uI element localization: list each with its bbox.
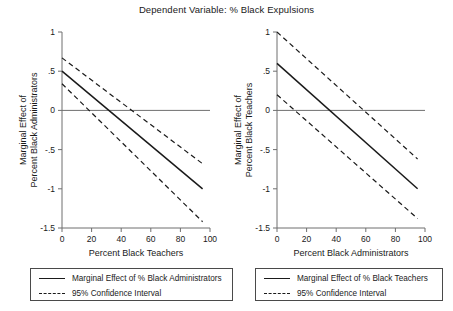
x-axis-tick-label: 60 [146, 234, 156, 244]
y-axis-title-line1: Marginal Effect of [18, 95, 28, 165]
legend-key-stroke [264, 293, 290, 294]
legend-entry: Marginal Effect of % Black Teachers [256, 271, 442, 286]
y-axis-tick-label: 1 [265, 27, 270, 37]
legend-solid-line-icon [262, 274, 292, 284]
y-axis-tick-label: 0 [50, 105, 55, 115]
x-axis-tick-label: 20 [302, 234, 312, 244]
legend-right: Marginal Effect of % Black Teachers95% C… [255, 268, 443, 301]
legend-key-stroke [264, 278, 290, 279]
chart-panel-left: 1.50-.5-1-1.5020406080100Percent Black T… [18, 27, 217, 258]
x-axis-tick-label: 80 [176, 234, 186, 244]
y-axis-title-line2: Percent Black Administrators [29, 72, 39, 188]
legend-entry: 95% Confidence Interval [256, 286, 442, 301]
legend-dashed-line-icon [37, 289, 67, 299]
legend-entry: 95% Confidence Interval [31, 286, 232, 301]
y-axis-tick-label: 1 [50, 27, 55, 37]
series-line-dashed [277, 95, 418, 219]
x-axis-tick-label: 100 [203, 234, 217, 244]
legend-entry-label: 95% Confidence Interval [67, 289, 161, 298]
legend-left: Marginal Effect of % Black Administrator… [30, 268, 233, 301]
series-line-solid [277, 63, 418, 188]
series-line-dashed [277, 32, 418, 159]
x-axis-title: Percent Black Administrators [293, 248, 409, 258]
x-axis-tick-label: 80 [391, 234, 401, 244]
legend-entry-label: Marginal Effect of % Black Teachers [292, 274, 428, 283]
y-axis-tick-label: .5 [263, 66, 270, 76]
y-axis-title-line1: Marginal Effect of [233, 95, 243, 165]
legend-entry: Marginal Effect of % Black Administrator… [31, 271, 232, 286]
legend-solid-line-icon [37, 274, 67, 284]
y-axis-tick-label: -1.5 [40, 223, 55, 233]
legend-entry-label: 95% Confidence Interval [292, 289, 386, 298]
y-axis-tick-label: -.5 [45, 145, 55, 155]
figure-title: Dependent Variable: % Black Expulsions [0, 4, 453, 15]
x-axis-tick-label: 60 [361, 234, 371, 244]
chart-panel-right: 1.50-.5-1-1.5020406080100Percent Black A… [233, 27, 432, 258]
y-axis-tick-label: .5 [48, 66, 55, 76]
y-axis-tick-label: -1 [262, 184, 270, 194]
x-axis-tick-label: 40 [331, 234, 341, 244]
chart-svg: 1.50-.5-1-1.5020406080100Percent Black T… [0, 0, 453, 311]
x-axis-tick-label: 0 [275, 234, 280, 244]
legend-key-stroke [39, 293, 65, 294]
x-axis-tick-label: 40 [116, 234, 126, 244]
y-axis-tick-label: -1 [47, 184, 55, 194]
series-line-solid [62, 71, 203, 189]
series-line-dashed [62, 84, 203, 222]
x-axis-tick-label: 20 [87, 234, 97, 244]
x-axis-tick-label: 100 [418, 234, 432, 244]
x-axis-tick-label: 0 [60, 234, 65, 244]
x-axis-title: Percent Black Teachers [89, 248, 184, 258]
y-axis-tick-label: -1.5 [255, 223, 270, 233]
legend-entry-label: Marginal Effect of % Black Administrator… [67, 274, 222, 283]
y-axis-tick-label: 0 [265, 105, 270, 115]
y-axis-tick-label: -.5 [260, 145, 270, 155]
y-axis-title-line2: Percent Black Teachers [244, 82, 254, 177]
legend-dashed-line-icon [262, 289, 292, 299]
legend-key-stroke [39, 278, 65, 279]
figure-container: Dependent Variable: % Black Expulsions 1… [0, 0, 453, 311]
